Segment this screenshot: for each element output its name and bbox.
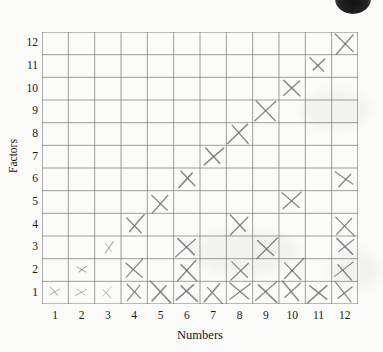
factor-mark-12-6	[335, 172, 353, 187]
factor-mark-12-12	[335, 34, 353, 54]
x-tick-label-12: 12	[330, 310, 360, 322]
factor-mark-5-1	[151, 281, 171, 302]
factor-mark-7-1	[204, 284, 222, 304]
factor-mark-7-7	[204, 148, 223, 165]
factor-mark-8-8	[228, 124, 248, 143]
y-tick-label-1: 1	[16, 287, 38, 299]
x-axis-title: Numbers	[42, 328, 358, 343]
data-marks-layer	[42, 32, 358, 304]
factor-mark-3-1	[103, 287, 111, 298]
factor-mark-11-11	[310, 58, 325, 72]
factor-mark-4-1	[127, 284, 140, 300]
factor-mark-12-1	[335, 282, 352, 302]
y-tick-label-12: 12	[16, 37, 38, 49]
factor-mark-6-3	[176, 239, 196, 257]
y-tick-label-3: 3	[16, 241, 38, 253]
x-axis-tick-labels: 123456789101112	[42, 310, 358, 326]
factor-mark-2-2	[77, 266, 86, 272]
y-tick-label-6: 6	[16, 173, 38, 185]
factor-mark-9-1	[256, 281, 277, 302]
plot-area	[42, 32, 358, 304]
factor-mark-12-3	[337, 239, 354, 255]
y-tick-label-8: 8	[16, 128, 38, 140]
factor-mark-9-3	[257, 238, 277, 258]
factor-mark-6-1	[176, 285, 197, 301]
y-tick-label-11: 11	[16, 60, 38, 72]
factor-mark-12-2	[335, 262, 354, 280]
factor-mark-3-3	[105, 242, 113, 254]
factor-mark-6-6	[179, 171, 195, 187]
factor-mark-8-4	[230, 215, 248, 235]
y-tick-label-5: 5	[16, 196, 38, 208]
scan-artifact-blob	[335, 0, 371, 14]
factor-mark-10-1	[282, 281, 300, 301]
factor-mark-4-2	[126, 259, 142, 277]
factor-mark-8-2	[231, 262, 248, 280]
factor-mark-8-1	[230, 283, 250, 299]
factor-mark-12-4	[336, 217, 355, 236]
factor-mark-11-1	[308, 286, 327, 303]
factor-mark-9-9	[255, 101, 276, 121]
factor-mark-2-1	[76, 289, 86, 295]
factor-mark-4-4	[127, 215, 144, 233]
y-tick-label-9: 9	[16, 105, 38, 117]
y-tick-label-4: 4	[16, 219, 38, 231]
factor-mark-10-10	[284, 80, 300, 95]
factor-mark-10-2	[285, 258, 304, 279]
factor-mark-5-5	[152, 196, 168, 213]
y-tick-label-2: 2	[16, 264, 38, 276]
y-tick-label-10: 10	[16, 83, 38, 95]
factor-mark-10-5	[282, 192, 301, 208]
y-axis-tick-labels: 123456789101112	[12, 32, 38, 304]
factor-mark-6-2	[178, 260, 197, 280]
y-tick-label-7: 7	[16, 151, 38, 163]
factor-mark-1-1	[50, 287, 60, 295]
